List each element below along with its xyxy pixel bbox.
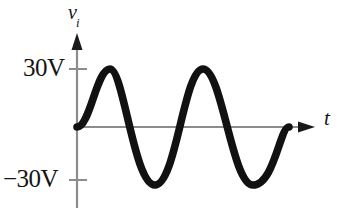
y-axis-label-positive-30: 30V xyxy=(23,55,65,80)
y-axis-name-subscript: i xyxy=(76,15,80,30)
y-axis-arrowhead-icon xyxy=(72,33,83,50)
waveform-figure: 30V −30V vi t xyxy=(0,0,342,213)
y-axis-label-negative-30: −30V xyxy=(3,166,58,191)
x-axis-name-label: t xyxy=(324,108,330,129)
y-axis-name-label: vi xyxy=(68,2,81,26)
x-axis-arrowhead-icon xyxy=(298,122,315,133)
